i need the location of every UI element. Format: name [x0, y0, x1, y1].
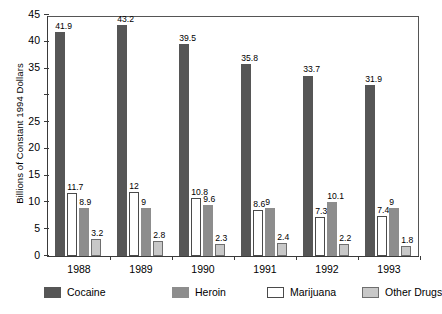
x-axis-label: 1991 [234, 263, 296, 275]
bar-value-label: 8.9 [79, 198, 91, 207]
legend-item-cocaine: Cocaine [44, 286, 106, 298]
bar-marijuana [191, 198, 202, 256]
x-axis-tick [296, 256, 297, 260]
bar-marijuana [315, 217, 326, 256]
bar-other [401, 246, 412, 256]
bar-value-label: 12 [129, 182, 139, 191]
legend-label: Marijuana [290, 286, 336, 298]
plot-area: 0510152025354045 41.911.78.93.2198843.21… [47, 16, 419, 257]
bar-heroin [327, 202, 338, 256]
x-axis-label: 1989 [110, 263, 172, 275]
bar-value-label: 33.7 [303, 65, 320, 74]
bar-value-label: 2.2 [339, 234, 351, 243]
legend-swatch-marijuana [267, 287, 284, 298]
y-axis-title: Billions of Constant 1994 Dollars [14, 19, 25, 249]
bar-other [91, 239, 102, 256]
y-tick-label: 40 [28, 34, 40, 46]
x-axis-label: 1990 [172, 263, 234, 275]
y-tick-mark [44, 14, 49, 15]
x-axis-tick [358, 256, 359, 260]
bar-group: 31.97.491.81993 [358, 16, 420, 256]
y-tick-label: 25 [28, 115, 40, 127]
bar-value-label: 2.8 [153, 231, 165, 240]
bar-heroin [203, 205, 214, 256]
bar-cocaine [365, 85, 376, 256]
legend-swatch-other [362, 287, 379, 298]
bar-other [277, 243, 288, 256]
bar-other [153, 241, 164, 256]
bar-value-label: 43.2 [117, 15, 134, 24]
x-axis-label: 1992 [296, 263, 358, 275]
legend-item-heroin: Heroin [172, 286, 226, 298]
bar-group: 33.77.310.12.21992 [296, 16, 358, 256]
bar-value-label: 2.4 [277, 233, 289, 242]
bar-marijuana [377, 216, 388, 256]
legend-label: Heroin [195, 286, 226, 298]
x-axis-tick [234, 256, 235, 260]
bar-group: 41.911.78.93.21988 [48, 16, 110, 256]
legend-label: Cocaine [67, 286, 106, 298]
y-tick-label: 45 [28, 8, 40, 20]
bar-heroin [141, 208, 152, 256]
x-axis-label: 1988 [48, 263, 110, 275]
bar-value-label: 9 [141, 198, 146, 207]
bar-value-label: 2.3 [215, 234, 227, 243]
y-tick-label: 5 [34, 222, 40, 234]
legend-swatch-heroin [172, 287, 189, 298]
y-tick-label: 15 [28, 168, 40, 180]
bar-value-label: 35.8 [241, 54, 258, 63]
bar-value-label: 7.4 [377, 206, 389, 215]
legend-swatch-cocaine [44, 287, 61, 298]
x-axis-tick [172, 256, 173, 260]
bar-value-label: 10.1 [327, 192, 344, 201]
bar-value-label: 7.3 [315, 207, 327, 216]
bar-value-label: 41.9 [55, 22, 72, 31]
bar-other [339, 244, 350, 256]
legend-item-other: Other Drugs [362, 286, 442, 298]
bar-group: 43.21292.81989 [110, 16, 172, 256]
chart-legend: CocaineHeroinMarijuanaOther Drugs [44, 286, 424, 306]
bar-value-label: 9 [265, 198, 270, 207]
y-tick-label: 20 [28, 141, 40, 153]
bar-other [215, 244, 226, 256]
bar-cocaine [241, 64, 252, 256]
bar-value-label: 9.6 [203, 195, 215, 204]
x-axis-label: 1993 [358, 263, 420, 275]
bar-heroin [79, 208, 90, 256]
y-tick-label: 10 [28, 195, 40, 207]
legend-item-marijuana: Marijuana [267, 286, 336, 298]
bar-marijuana [253, 210, 264, 256]
bar-value-label: 31.9 [365, 75, 382, 84]
y-tick-label: 0 [34, 249, 40, 261]
bar-heroin [265, 208, 276, 256]
bar-cocaine [117, 25, 128, 256]
bar-value-label: 8.6 [253, 200, 265, 209]
bar-group: 35.88.692.41991 [234, 16, 296, 256]
bar-value-label: 9 [389, 198, 394, 207]
bar-marijuana [129, 192, 140, 256]
bar-cocaine [179, 44, 190, 256]
bar-value-label: 3.2 [91, 229, 103, 238]
bar-value-label: 39.5 [179, 34, 196, 43]
x-axis-tick [420, 256, 421, 260]
bar-cocaine [303, 76, 314, 256]
bar-value-label: 1.8 [401, 236, 413, 245]
bar-group: 39.510.89.62.31990 [172, 16, 234, 256]
x-axis-tick [110, 256, 111, 260]
bar-heroin [389, 208, 400, 256]
bar-cocaine [55, 32, 66, 256]
y-tick-label: 35 [28, 61, 40, 73]
bar-value-label: 11.7 [67, 183, 83, 192]
legend-label: Other Drugs [385, 286, 442, 298]
bar-marijuana [67, 193, 78, 256]
